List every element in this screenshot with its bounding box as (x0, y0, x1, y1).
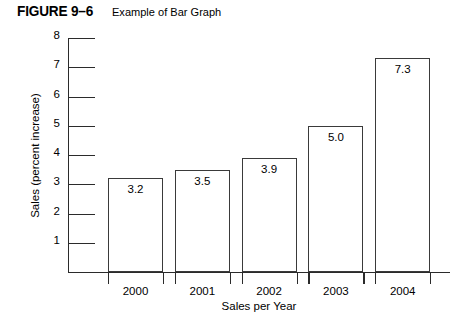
plot-area: 87654321 20002001200220032004 3.23.53.95… (68, 38, 450, 273)
y-tick: 6 (68, 97, 95, 98)
y-tick: 7 (68, 67, 95, 68)
bar: 3.9 (242, 158, 297, 272)
y-axis-title: Sales (percent increase) (28, 38, 42, 273)
bar: 5.0 (308, 126, 363, 272)
x-tick (163, 272, 164, 284)
y-tick: 1 (68, 243, 95, 244)
y-tick-label: 8 (44, 30, 60, 42)
bar: 7.3 (375, 58, 430, 272)
x-tick-label: 2000 (106, 286, 166, 298)
y-tick: 4 (68, 155, 95, 156)
y-tick: 3 (68, 184, 95, 185)
x-tick-label: 2004 (373, 286, 433, 298)
x-tick (375, 272, 376, 284)
x-axis-line (68, 272, 450, 273)
y-tick: 2 (68, 214, 95, 215)
bar-value-label: 3.9 (243, 164, 296, 176)
x-tick (230, 272, 231, 284)
x-tick (430, 272, 431, 284)
bar-value-label: 3.2 (109, 184, 162, 196)
bar-chart: Sales (percent increase) 87654321 200020… (0, 0, 467, 335)
y-tick-label: 1 (44, 235, 60, 247)
x-tick-label: 2002 (239, 286, 299, 298)
x-tick (297, 272, 298, 284)
y-tick-label: 3 (44, 176, 60, 188)
y-tick: 8 (68, 38, 95, 39)
x-tick-label: 2001 (172, 286, 232, 298)
y-tick-label: 2 (44, 206, 60, 218)
x-tick (363, 272, 364, 284)
y-tick-label: 4 (44, 147, 60, 159)
bar-value-label: 3.5 (176, 176, 229, 188)
y-tick: 5 (68, 126, 95, 127)
bar-value-label: 7.3 (376, 64, 429, 76)
y-tick-label: 6 (44, 89, 60, 101)
x-axis-title: Sales per Year (68, 300, 450, 312)
x-tick (308, 272, 309, 284)
x-tick (242, 272, 243, 284)
bar: 3.5 (175, 170, 230, 272)
y-tick-label: 5 (44, 118, 60, 130)
y-tick-label: 7 (44, 59, 60, 71)
bar-value-label: 5.0 (309, 132, 362, 144)
x-tick (108, 272, 109, 284)
x-tick-label: 2003 (306, 286, 366, 298)
x-tick (175, 272, 176, 284)
bar: 3.2 (108, 178, 163, 272)
